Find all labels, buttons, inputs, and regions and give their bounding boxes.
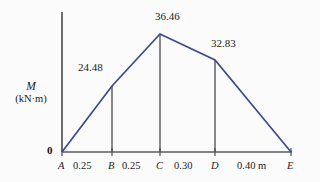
value-label-d: 32.83 — [211, 38, 236, 49]
station-label-c: C — [156, 161, 163, 172]
segment-label-bc: 0.25 — [122, 161, 140, 172]
value-label-b: 24.48 — [78, 62, 103, 73]
y-axis-units: (kN·m) — [6, 93, 56, 105]
origin-zero-label: 0 — [47, 145, 53, 156]
segment-label-de: 0.40 m — [237, 161, 266, 172]
segment-label-cd: 0.30 — [174, 161, 192, 172]
value-label-c: 36.46 — [155, 11, 180, 22]
y-axis-symbol: M — [6, 80, 56, 93]
station-label-a: A — [58, 161, 64, 172]
segment-label-ab: 0.25 — [73, 161, 91, 172]
station-label-b: B — [108, 161, 114, 172]
station-label-e: E — [287, 161, 293, 172]
station-label-d: D — [211, 161, 219, 172]
y-axis-label: M (kN·m) — [6, 80, 56, 105]
moment-curve — [62, 34, 291, 152]
moment-diagram-figure: M (kN·m) 0 24.48 36.46 32.83 A B C D E 0… — [0, 0, 320, 182]
